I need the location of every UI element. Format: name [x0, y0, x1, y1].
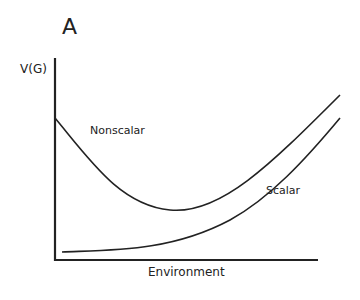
plot-area: [0, 0, 360, 300]
nonscalar-curve: [55, 95, 340, 210]
scalar-curve: [62, 118, 340, 252]
